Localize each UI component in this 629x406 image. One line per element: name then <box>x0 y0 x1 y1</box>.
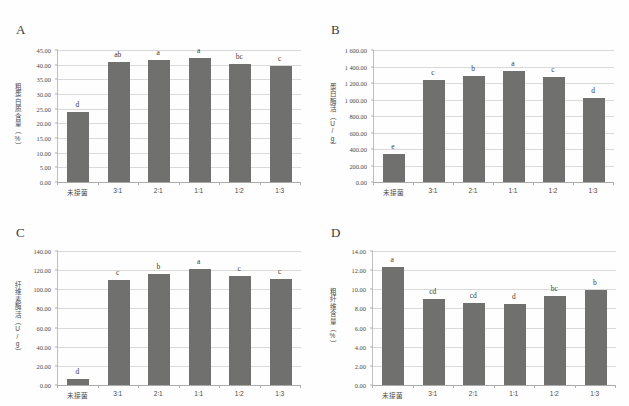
significance-label-b-2: b <box>471 64 475 73</box>
y-tick-mark <box>55 365 58 366</box>
gridline <box>58 138 301 139</box>
y-tick-label: 12.00 <box>330 267 366 274</box>
gridline <box>58 50 301 51</box>
x-tick-mark <box>575 385 576 388</box>
y-tick-label: 25.00 <box>15 105 51 112</box>
bar-c-1 <box>108 280 130 385</box>
y-tick-mark <box>55 308 58 309</box>
bar-b-0 <box>383 154 405 182</box>
significance-label-d-2: cd <box>470 291 477 300</box>
x-tick-mark <box>138 182 139 185</box>
gridline <box>374 166 614 167</box>
bar-c-0 <box>67 379 89 385</box>
bar-b-1 <box>423 80 445 182</box>
x-tick-mark <box>98 182 99 185</box>
x-tick-mark <box>57 182 58 185</box>
significance-label-c-3: a <box>197 257 200 266</box>
significance-label-b-4: c <box>551 65 554 74</box>
y-tick-mark <box>55 270 58 271</box>
x-tick-mark <box>179 385 180 388</box>
x-axis-label-d-4: 1∶2 <box>550 390 559 398</box>
chart-panel-d: D粗纤维含量（%）0.002.004.006.008.0010.0012.001… <box>315 203 629 406</box>
gridline <box>58 123 301 124</box>
x-axis-label-a-3: 1∶1 <box>194 187 203 195</box>
x-tick-mark <box>373 182 374 185</box>
y-tick-mark <box>371 116 374 117</box>
y-tick-label: 60.00 <box>15 324 51 331</box>
bar-d-3 <box>504 304 526 385</box>
x-tick-mark <box>533 182 534 185</box>
x-axis-label-c-5: 1∶3 <box>275 390 284 398</box>
y-tick-label: 0.00 <box>330 382 366 389</box>
y-tick-mark <box>55 289 58 290</box>
y-tick-label: 40.00 <box>15 343 51 350</box>
x-tick-mark <box>260 182 261 185</box>
gridline <box>373 251 616 252</box>
y-tick-mark <box>371 66 374 67</box>
panel-letter-b: B <box>331 22 340 38</box>
x-tick-mark <box>372 385 373 388</box>
x-axis-label-c-4: 1∶2 <box>235 390 244 398</box>
x-tick-mark <box>615 385 616 388</box>
gridline <box>58 94 301 95</box>
x-axis-label-c-3: 1∶1 <box>194 390 203 398</box>
gridline <box>374 133 614 134</box>
y-tick-mark <box>370 289 373 290</box>
y-tick-mark <box>371 132 374 133</box>
y-tick-mark <box>55 64 58 65</box>
bar-d-4 <box>544 296 566 385</box>
significance-label-d-5: b <box>593 278 597 287</box>
gridline <box>373 328 616 329</box>
x-tick-mark <box>613 182 614 185</box>
gridline <box>374 116 614 117</box>
gridline <box>58 328 301 329</box>
x-tick-mark <box>98 385 99 388</box>
gridline <box>373 308 616 309</box>
y-tick-label: 200.00 <box>327 162 367 169</box>
gridline <box>374 149 614 150</box>
y-axis-title-c: 纤维素酶活（U/g） <box>14 257 21 379</box>
bar-c-2 <box>148 274 170 385</box>
y-tick-label: 5.00 <box>15 164 51 171</box>
significance-label-b-1: c <box>431 68 434 77</box>
x-axis-label-a-2: 2∶1 <box>154 187 163 195</box>
x-axis-label-d-0: 未接菌 <box>382 390 403 400</box>
gridline <box>58 109 301 110</box>
x-axis-label-d-1: 3∶1 <box>428 390 437 398</box>
y-tick-label: 100.00 <box>15 286 51 293</box>
y-tick-label: 8.00 <box>330 305 366 312</box>
significance-label-c-2: b <box>156 262 160 271</box>
significance-label-d-3: d <box>512 292 516 301</box>
gridline <box>58 251 301 252</box>
bar-a-3 <box>189 58 211 182</box>
y-tick-mark <box>55 79 58 80</box>
y-tick-label: 10.00 <box>15 149 51 156</box>
significance-label-a-2: a <box>157 48 160 57</box>
x-axis-label-d-5: 1∶3 <box>590 390 599 398</box>
gridline <box>58 79 301 80</box>
plot-area-b <box>373 50 614 182</box>
x-axis-label-c-2: 2∶1 <box>154 390 163 398</box>
significance-label-d-1: cd <box>429 287 436 296</box>
bar-b-3 <box>503 71 525 182</box>
chart-panel-a: A粗蛋白质含量（%）0.005.0010.0015.0020.0025.0030… <box>0 0 314 203</box>
x-tick-mark <box>179 182 180 185</box>
y-tick-label: 800.00 <box>327 113 367 120</box>
y-tick-label: 0.00 <box>15 179 51 186</box>
significance-label-a-3: a <box>197 46 200 55</box>
y-tick-mark <box>370 308 373 309</box>
significance-label-c-5: c <box>278 267 281 276</box>
bar-b-2 <box>463 76 485 182</box>
x-tick-mark <box>494 385 495 388</box>
y-tick-label: 1 200.00 <box>327 80 367 87</box>
y-axis-title-a: 粗蛋白质含量（%） <box>14 56 21 176</box>
bar-b-4 <box>543 77 565 182</box>
x-axis-label-b-3: 1∶1 <box>508 187 517 195</box>
gridline <box>373 270 616 271</box>
x-axis-label-b-1: 3∶1 <box>428 187 437 195</box>
panel-letter-a: A <box>16 22 26 38</box>
y-tick-label: 15.00 <box>15 135 51 142</box>
x-tick-mark <box>534 385 535 388</box>
y-tick-mark <box>370 327 373 328</box>
y-tick-label: 4.00 <box>330 343 366 350</box>
